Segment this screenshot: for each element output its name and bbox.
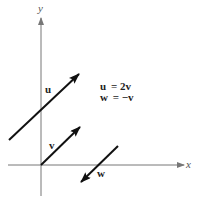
vector-diagram: x y u v w u = 2v w = −v: [0, 0, 199, 207]
equations: u = 2v w = −v: [100, 80, 134, 103]
vector-v-label: v: [49, 139, 55, 151]
equation-w: w = −v: [100, 91, 134, 103]
y-axis-label: y: [37, 2, 43, 14]
x-axis-label: x: [185, 158, 191, 170]
vector-v: [41, 127, 80, 165]
vector-u-label: u: [45, 83, 51, 95]
vector-u: [9, 74, 79, 140]
vector-w-label: w: [97, 167, 105, 179]
